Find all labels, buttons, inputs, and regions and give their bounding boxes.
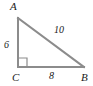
right-angle-marker-icon bbox=[18, 58, 27, 67]
side-length-label-vertical: 6 bbox=[4, 40, 9, 50]
right-triangle-figure: A B C 6 8 10 bbox=[0, 0, 93, 86]
side-length-label-hypotenuse: 10 bbox=[54, 25, 64, 35]
vertex-label-c: C bbox=[12, 72, 19, 83]
vertex-label-a: A bbox=[10, 1, 17, 12]
vertex-label-b: B bbox=[81, 72, 88, 83]
triangle-hypotenuse bbox=[18, 18, 84, 67]
side-length-label-horizontal: 8 bbox=[49, 71, 54, 81]
